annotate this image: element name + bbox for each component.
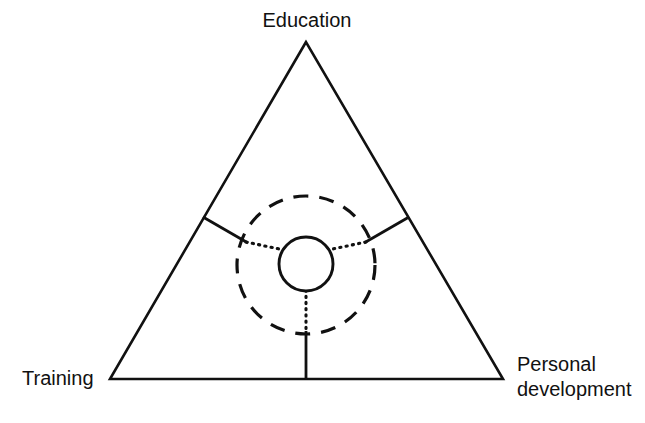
- spoke-upper-left-solid: [203, 217, 248, 243]
- spoke-upper-right-dotted: [328, 242, 366, 250]
- label-education: Education: [0, 8, 614, 33]
- label-personal-development-line2: development: [517, 377, 632, 402]
- inner-core-circle: [279, 237, 333, 291]
- spoke-upper-right-solid: [364, 217, 409, 243]
- label-personal-development-line1: Personal: [517, 352, 632, 377]
- spoke-upper-left-dotted: [246, 242, 284, 250]
- label-personal-development: Personal development: [517, 352, 632, 402]
- label-training: Training: [22, 366, 94, 391]
- diagram-figure: Education Training Personal development: [0, 0, 645, 423]
